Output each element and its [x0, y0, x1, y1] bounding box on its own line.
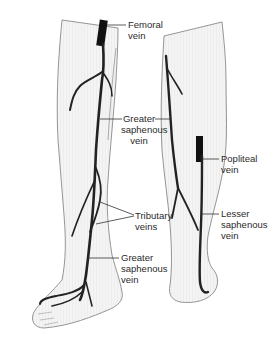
label-greater-saphenous-vein-upper: Greater saphenous vein [121, 113, 157, 146]
left-leg-outline [32, 20, 122, 328]
label-greater-saphenous-vein-lower: Greater saphenous vein [121, 252, 167, 285]
left-leg-anterior-view [32, 20, 122, 328]
label-popliteal-vein: Popliteal vein [221, 153, 257, 175]
right-leg-outline [161, 22, 226, 303]
label-femoral-vein: Femoral vein [128, 19, 163, 41]
label-tributary-veins: Tributary veins [135, 210, 172, 232]
right-leg-posterior-view [161, 22, 226, 303]
label-lesser-saphenous-vein: Lesser saphenous vein [221, 208, 267, 241]
